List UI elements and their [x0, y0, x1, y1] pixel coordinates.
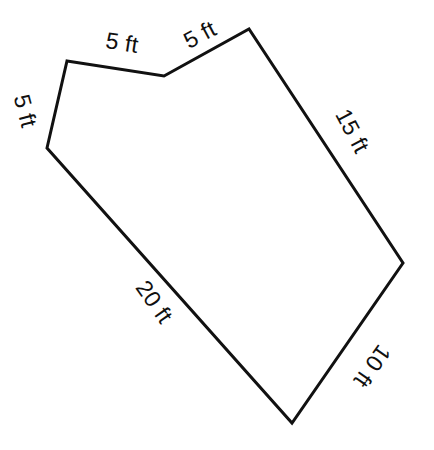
polygon-outline	[47, 29, 403, 423]
geometry-figure: 5 ft 5 ft 15 ft 10 ft 20 ft 5 ft	[0, 0, 434, 450]
edge-label-top-left: 5 ft	[104, 29, 140, 57]
